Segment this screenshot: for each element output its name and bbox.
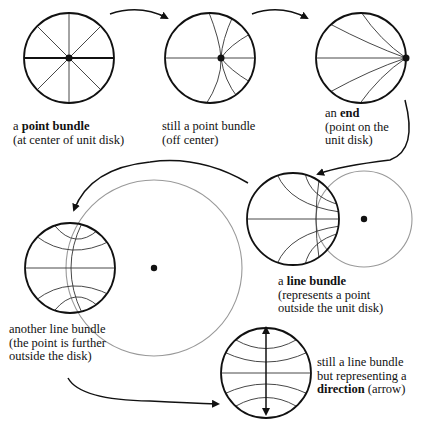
point-marker (218, 55, 225, 62)
pole-marker (151, 265, 157, 271)
end-marker (403, 55, 410, 62)
label-point-center: a point bundle (at center of unit disk) (13, 120, 124, 147)
disk-end (316, 12, 410, 106)
transition-arrows (68, 10, 409, 404)
arrow-1-to-2 (110, 10, 167, 18)
disk-point-center (24, 10, 114, 106)
disk-direction (221, 328, 311, 418)
label-line-bundle: a line bundle (represents a point outsid… (278, 275, 383, 316)
arrow-5-to-6 (68, 378, 218, 404)
disk-line-bundle (247, 171, 412, 267)
label-point-off: still a point bundle (off center) (162, 120, 255, 147)
point-marker (66, 55, 73, 62)
label-direction: still a line bundle but representing a d… (317, 356, 407, 397)
arrow-4-to-5 (74, 161, 248, 210)
pole-marker (361, 216, 367, 222)
label-line-bundle-far: another line bundle (the point is furthe… (9, 323, 106, 364)
label-end: an end (point on the unit disk) (325, 107, 389, 148)
arrow-2-to-3 (252, 10, 307, 18)
disk-point-off (165, 10, 255, 106)
